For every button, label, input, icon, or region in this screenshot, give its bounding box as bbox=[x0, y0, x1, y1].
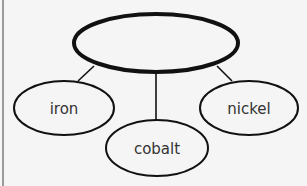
concept-web-diagram: iron cobalt nickel bbox=[0, 0, 307, 186]
node-iron[interactable]: iron bbox=[14, 81, 114, 135]
node-label-cobalt: cobalt bbox=[134, 140, 180, 158]
central-node[interactable] bbox=[74, 14, 238, 72]
connector-nickel bbox=[217, 66, 232, 81]
node-label-iron: iron bbox=[50, 100, 79, 118]
connector-iron bbox=[78, 66, 94, 81]
node-label-nickel: nickel bbox=[227, 100, 270, 118]
node-cobalt[interactable]: cobalt bbox=[106, 120, 208, 176]
node-nickel[interactable]: nickel bbox=[200, 81, 298, 135]
